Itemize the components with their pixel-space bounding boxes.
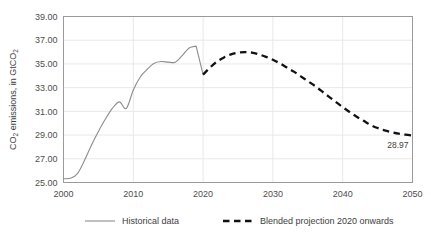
y-axis-tick-label: 29.00 (35, 130, 58, 140)
x-axis-tick-label: 2050 (402, 189, 422, 199)
y-axis-tick-label: 35.00 (35, 59, 58, 69)
data-point-label: 28.97 (387, 140, 409, 150)
chart-legend: Historical dataBlended projection 2020 o… (85, 216, 394, 226)
grid-lines (64, 17, 413, 183)
plot-area-border (64, 17, 413, 183)
chart-container: 25.0027.0029.0031.0033.0035.0037.0039.00… (0, 0, 431, 240)
y-axis-tick-label: 33.00 (35, 83, 58, 93)
y-axis-tick-label: 31.00 (35, 107, 58, 117)
y-axis-tick-label: 27.00 (35, 154, 58, 164)
legend-item-label: Blended projection 2020 onwards (260, 216, 394, 226)
y-axis-ticks: 25.0027.0029.0031.0033.0035.0037.0039.00 (35, 12, 58, 188)
y-axis-tick-label: 39.00 (35, 12, 58, 22)
x-axis-tick-label: 2040 (333, 189, 353, 199)
y-axis-title-text: CO2 emissions, in GtCO2 (8, 49, 19, 150)
co2-emissions-line-chart: 25.0027.0029.0031.0033.0035.0037.0039.00… (0, 0, 431, 240)
y-axis-title: CO2 emissions, in GtCO2 (8, 49, 19, 150)
series-line-projection (203, 52, 412, 135)
x-axis-tick-label: 2020 (193, 189, 213, 199)
x-axis-tick-label: 2000 (53, 189, 73, 199)
x-axis-tick-label: 2010 (123, 189, 143, 199)
y-axis-tick-label: 37.00 (35, 35, 58, 45)
legend-item-label: Historical data (122, 216, 179, 226)
y-axis-tick-label: 25.00 (35, 178, 58, 188)
data-label-annotations: 28.97 (387, 140, 409, 150)
x-axis-ticks: 200020102020203020402050 (53, 189, 422, 199)
plot-border (64, 17, 413, 183)
x-axis-tick-label: 2030 (263, 189, 283, 199)
